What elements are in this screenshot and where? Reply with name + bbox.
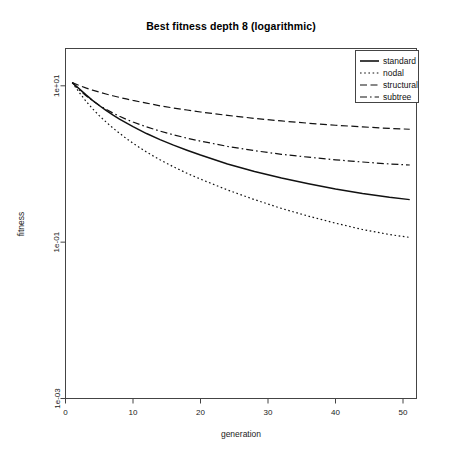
x-tick-label: 20 <box>196 408 205 417</box>
x-axis-title: generation <box>221 429 261 439</box>
y-tick-label: 1e+01 <box>53 74 62 97</box>
legend-label-structural: structural <box>383 80 418 90</box>
y-tick-label: 1e-03 <box>53 388 62 409</box>
x-axis: 01020304050 <box>63 399 408 417</box>
y-tick-label: 1e-01 <box>53 231 62 252</box>
x-tick-label: 50 <box>399 408 408 417</box>
x-tick-label: 0 <box>63 408 68 417</box>
series-line-nodal <box>72 83 410 238</box>
legend-label-subtree: subtree <box>383 92 412 102</box>
y-axis: 1e+011e-011e-03 <box>53 74 66 409</box>
x-tick-label: 40 <box>331 408 340 417</box>
legend[interactable]: standardnodalstructuralsubtree <box>356 51 419 103</box>
chart-container: Best fitness depth 8 (logarithmic) 1e+01… <box>0 0 462 464</box>
legend-label-nodal: nodal <box>383 68 404 78</box>
plot-area: 1e+011e-011e-03 01020304050 generation f… <box>0 0 462 464</box>
x-tick-label: 10 <box>129 408 138 417</box>
x-tick-label: 30 <box>264 408 273 417</box>
legend-label-standard: standard <box>383 56 416 66</box>
data-series-group <box>72 83 410 238</box>
y-axis-title: fitness <box>16 212 26 237</box>
